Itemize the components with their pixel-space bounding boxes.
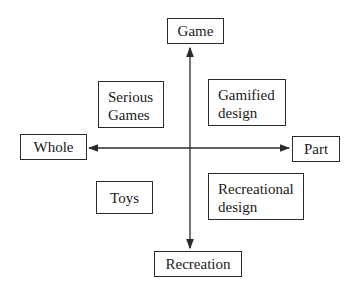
gamified-design-box: Gamified design: [208, 79, 286, 126]
game-box: Game: [167, 18, 224, 44]
recreation-box: Recreation: [154, 251, 242, 277]
serious-games-line1: Serious: [108, 88, 163, 106]
whole-label: Whole: [34, 138, 74, 156]
recreational-design-box: Recreational design: [208, 173, 304, 220]
serious-games-box: Serious Games: [98, 81, 164, 128]
toys-box: Toys: [96, 181, 153, 214]
part-label: Part: [304, 140, 328, 158]
serious-games-line2: Games: [108, 106, 163, 124]
whole-box: Whole: [20, 134, 87, 160]
recreational-design-line2: design: [218, 198, 303, 216]
part-box: Part: [292, 136, 340, 162]
recreational-design-line1: Recreational: [218, 180, 303, 198]
recreation-label: Recreation: [166, 255, 231, 273]
toys-label: Toys: [110, 189, 139, 207]
game-label: Game: [178, 22, 214, 40]
gamified-design-line1: Gamified: [218, 86, 285, 104]
gamified-design-line2: design: [218, 104, 285, 122]
